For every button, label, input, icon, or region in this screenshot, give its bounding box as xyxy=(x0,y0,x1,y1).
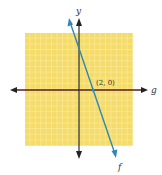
line-g-label: g xyxy=(151,85,157,95)
x-intercept-point xyxy=(92,89,95,92)
coordinate-plane: y g f (2, 0) xyxy=(0,0,162,175)
left-arrow-icon xyxy=(10,87,17,93)
line-f-label: f xyxy=(117,162,123,172)
intercept-label: (2, 0) xyxy=(96,79,115,87)
up-arrow-icon xyxy=(76,18,82,26)
y-axis-label: y xyxy=(75,6,82,16)
line-f-top-arrow-icon xyxy=(68,18,74,27)
line-f-bottom-arrow-icon xyxy=(112,150,118,159)
down-arrow-icon xyxy=(76,151,82,159)
right-arrow-icon xyxy=(141,87,148,93)
